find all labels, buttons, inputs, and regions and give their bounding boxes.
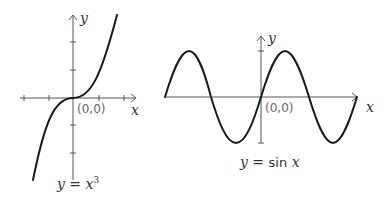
cubic-caption-y: y bbox=[57, 176, 65, 192]
cubic-origin-label: (0,0) bbox=[77, 103, 105, 115]
cubic-caption-eq: = bbox=[65, 176, 86, 192]
sine-caption-fn: sin bbox=[269, 155, 288, 170]
cubic-graph bbox=[20, 15, 136, 180]
sine-caption-y: y bbox=[240, 154, 248, 170]
cubic-caption: y = x3 bbox=[57, 176, 99, 191]
cubic-x-axis-label: x bbox=[131, 103, 139, 117]
sine-caption-x: x bbox=[292, 154, 300, 170]
sine-y-axis-label: y bbox=[268, 31, 276, 45]
sine-caption: y = sin x bbox=[240, 155, 300, 169]
sine-caption-eq: = bbox=[248, 154, 269, 170]
sine-graph bbox=[165, 36, 357, 143]
cubic-caption-exp: 3 bbox=[93, 175, 99, 185]
graphs-canvas bbox=[0, 0, 391, 199]
sine-origin-label: (0,0) bbox=[265, 102, 293, 114]
sine-x-axis-label: x bbox=[366, 100, 374, 114]
cubic-y-axis-label: y bbox=[80, 11, 88, 25]
